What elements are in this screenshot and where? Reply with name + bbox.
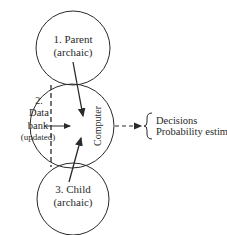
databank-label-data: Data [29,107,49,118]
child-label-status: (archaic) [53,196,92,209]
child-label-number: 3. Child [55,183,91,195]
child-to-computer-arrow [69,138,81,182]
output-probability-estimating: Probability estimating [156,126,227,137]
databank-label-bank: bank [28,120,49,131]
databank-label-number: 2. [35,95,43,106]
output-brace [144,113,152,139]
computer-label: Computer [92,105,103,146]
diagram-canvas: 1. Parent (archaic) 2. Data bank (update… [0,0,227,235]
parent-label-number: 1. Parent [53,33,92,45]
databank-label-updated: (updated) [21,132,55,142]
parent-label-status: (archaic) [53,46,92,59]
parent-to-computer-arrow [73,62,83,116]
output-decisions: Decisions [156,115,197,126]
